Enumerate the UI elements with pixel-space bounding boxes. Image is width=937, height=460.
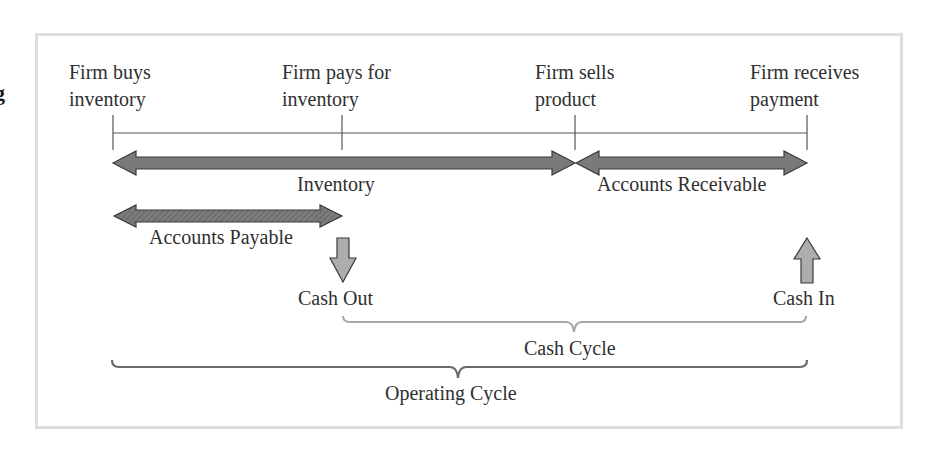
event-line-1: Firm sells (535, 59, 614, 86)
event-label-firm-buys: Firm buys inventory (69, 59, 151, 113)
operating-cycle-brace (112, 360, 807, 378)
inventory-label: Inventory (297, 171, 375, 198)
cash-out-arrow-icon (330, 238, 356, 282)
event-line-1: Firm pays for (282, 59, 391, 86)
accounts-payable-label: Accounts Payable (149, 224, 293, 251)
event-line-2: product (535, 86, 614, 113)
operating-cycle-label: Operating Cycle (385, 380, 517, 407)
cash-out-label: Cash Out (298, 285, 373, 312)
event-line-1: Firm receives (750, 59, 859, 86)
event-line-2: payment (750, 86, 859, 113)
cash-cycle-brace (343, 316, 806, 332)
cash-cycle-label: Cash Cycle (524, 335, 616, 362)
event-line-2: inventory (69, 86, 151, 113)
event-label-firm-receives: Firm receives payment (750, 59, 859, 113)
event-label-firm-pays: Firm pays for inventory (282, 59, 391, 113)
cash-in-arrow-icon (794, 238, 820, 283)
event-line-2: inventory (282, 86, 391, 113)
timeline (113, 115, 807, 150)
cash-in-label: Cash In (773, 285, 835, 312)
event-label-firm-sells: Firm sells product (535, 59, 614, 113)
event-line-1: Firm buys (69, 59, 151, 86)
accounts-receivable-label: Accounts Receivable (597, 171, 766, 198)
